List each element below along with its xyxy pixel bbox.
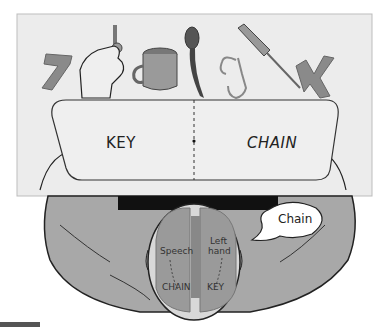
brain-chain-word: CHAIN — [162, 282, 191, 293]
right-hemisphere — [200, 208, 236, 312]
brain-hand-label: hand — [208, 246, 231, 257]
corpus-callosum — [191, 216, 201, 298]
corner-bar — [0, 322, 40, 327]
fixation-point — [192, 139, 195, 142]
figure: KEY CHAIN Speech Left hand CHAIN KEY Cha… — [0, 0, 384, 327]
screen-left-word: KEY — [106, 134, 136, 152]
speech-bubble-text: Chain — [278, 212, 312, 226]
head — [146, 204, 242, 320]
left-hemisphere — [156, 208, 190, 312]
screen-right-word: CHAIN — [247, 134, 297, 152]
illustration — [0, 0, 384, 327]
brain-speech-label: Speech — [160, 246, 193, 257]
brain-key-word: KEY — [207, 282, 224, 293]
